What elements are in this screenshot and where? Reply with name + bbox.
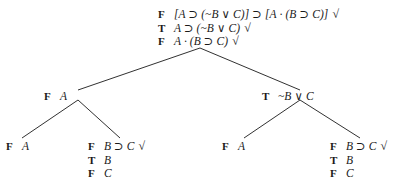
tree-line: F[A ⊃ (~B ∨ C)] ⊃ [A · (B ⊃ C)]√	[158, 6, 339, 20]
formula-text: A	[22, 140, 29, 154]
tree-line: TB	[330, 152, 387, 166]
tree-line: FC	[88, 165, 145, 179]
tree-node-root: F[A ⊃ (~B ∨ C)] ⊃ [A · (B ⊃ C)]√ TA ⊃ (~…	[158, 6, 339, 47]
tree-line: FB ⊃ C√	[88, 138, 145, 152]
tree-line: FB ⊃ C√	[330, 138, 387, 152]
tree-line: TA ⊃ (~B ∨ C)√	[158, 20, 339, 34]
formula-text: C	[104, 167, 112, 181]
tree-node-left-branch: FA	[44, 88, 71, 102]
tree-line: TB	[88, 152, 145, 166]
formula-text: A	[60, 90, 67, 104]
truth-value-label: F	[44, 90, 55, 104]
tree-node-right-branch: T~B ∨ C	[262, 88, 318, 102]
tree-line: FC	[330, 165, 387, 179]
check-mark-icon: √	[139, 140, 146, 154]
edge-root-to-right1	[200, 48, 300, 90]
formula-text: A · (B ⊃ C)	[174, 35, 228, 49]
tree-leaf-right-left: FA	[222, 138, 249, 152]
truth-value-label: F	[6, 140, 17, 154]
truth-value-label: F	[88, 167, 99, 181]
truth-tree-diagram: F[A ⊃ (~B ∨ C)] ⊃ [A · (B ⊃ C)]√ TA ⊃ (~…	[0, 0, 420, 191]
truth-value-label: F	[158, 35, 169, 49]
truth-value-label: T	[262, 90, 273, 104]
edge-left1-to-leaf-lr	[78, 100, 120, 138]
check-mark-icon: √	[332, 8, 339, 22]
formula-text: A	[238, 140, 245, 154]
formula-text: ~B ∨ C	[278, 90, 314, 104]
edge-root-to-left1	[78, 48, 200, 90]
check-mark-icon: √	[244, 22, 251, 36]
check-mark-icon: √	[381, 140, 388, 154]
truth-value-label: F	[330, 167, 341, 181]
tree-line: FA	[6, 138, 33, 152]
tree-line: FA	[44, 88, 71, 102]
formula-text: C	[346, 167, 354, 181]
truth-value-label: F	[222, 140, 233, 154]
edge-right1-to-leaf-rl	[244, 100, 300, 138]
tree-leaf-right-right: FB ⊃ C√ TB FC	[330, 138, 387, 179]
check-mark-icon: √	[232, 35, 239, 49]
tree-leaf-left-left: FA	[6, 138, 33, 152]
tree-line: T~B ∨ C	[262, 88, 318, 102]
tree-leaf-left-right: FB ⊃ C√ TB FC	[88, 138, 145, 179]
tree-line: FA · (B ⊃ C)√	[158, 33, 339, 47]
edge-left1-to-leaf-ll	[22, 100, 78, 138]
edge-right1-to-leaf-rr	[300, 100, 360, 138]
tree-line: FA	[222, 138, 249, 152]
